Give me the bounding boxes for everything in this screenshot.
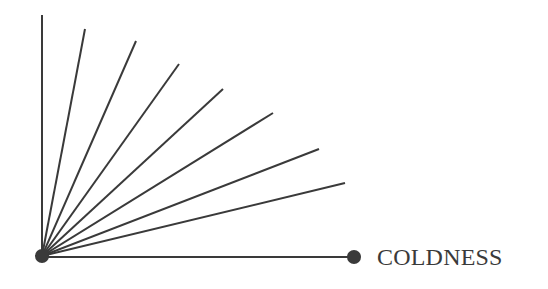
coldness-endpoint-dot — [347, 250, 361, 264]
ray-line-6 — [42, 149, 319, 256]
ray-line-2 — [42, 41, 136, 256]
origin-dot — [35, 249, 49, 263]
rays-group — [42, 29, 345, 256]
ray-line-5 — [42, 113, 273, 256]
coldness-label: COLDNESS — [377, 243, 503, 271]
